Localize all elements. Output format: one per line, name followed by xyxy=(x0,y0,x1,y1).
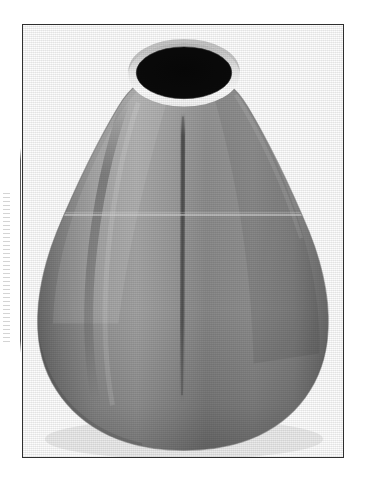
page-root: Grayscale scanned photograph of a conica… xyxy=(0,0,365,485)
nozzle-opening xyxy=(128,39,239,107)
scan-edge-strip xyxy=(3,193,10,343)
figure-frame xyxy=(22,24,344,458)
scan-vertical-rule xyxy=(20,148,21,353)
horizontal-scan-line xyxy=(23,214,343,216)
nozzle-figure-image xyxy=(23,25,343,457)
